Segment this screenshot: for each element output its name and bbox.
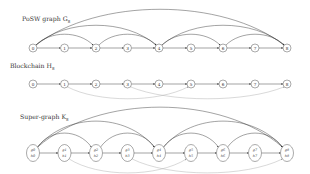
supergraph-node-4: g4h4	[153, 145, 166, 162]
node-label-top: g3	[125, 148, 129, 152]
node-label-bottom: h5	[189, 154, 193, 158]
node-label: 1	[63, 46, 66, 51]
posw-node-4: 4	[155, 44, 163, 52]
posw-node-0: 0	[29, 44, 37, 52]
nodes-layer: 012345678012345678g0h0g1h1g2h2g3h3g4h4g5…	[27, 44, 294, 162]
node-label: 4	[158, 82, 161, 87]
supergraph-node-5: g5h5	[185, 145, 198, 162]
supergraph-node-0: g0h0	[27, 145, 40, 162]
posw-arc-4-6	[162, 34, 220, 45]
posw-node-8: 8	[283, 44, 291, 52]
node-label: 5	[190, 46, 193, 51]
node-label: 6	[222, 82, 225, 87]
node-label-bottom: h4	[157, 154, 161, 158]
node-label-bottom: h2	[94, 154, 98, 158]
node-label: 6	[222, 46, 225, 51]
supergraph-node-3: g3h3	[121, 145, 134, 162]
node-label: 8	[286, 82, 289, 87]
posw-arc-2-4	[99, 34, 156, 45]
posw-node-5: 5	[187, 44, 195, 52]
graph-diagram: PoSW graph G8 Blockchain H8 Super-graph …	[0, 0, 310, 174]
supergraph-arc-0-8	[38, 107, 283, 147]
supergraph-title: Super-graph K8	[20, 113, 69, 122]
blockchain-node-8: 8	[283, 80, 291, 88]
node-label: 3	[126, 46, 129, 51]
node-label-bottom: h3	[125, 154, 129, 158]
posw-node-3: 3	[124, 44, 132, 52]
node-label: 8	[286, 46, 289, 51]
node-label: 4	[158, 46, 161, 51]
posw-arc-0-8	[36, 9, 284, 45]
posw-node-7: 7	[251, 44, 259, 52]
node-label: 0	[32, 82, 35, 87]
node-label-top: g2	[94, 148, 98, 152]
posw-node-6: 6	[219, 44, 227, 52]
node-label: 1	[63, 82, 66, 87]
node-label: 5	[190, 82, 193, 87]
blockchain-node-6: 6	[219, 80, 227, 88]
posw-arc-0-2	[36, 34, 93, 45]
node-label: 7	[254, 46, 257, 51]
blockchain-title: Blockchain H8	[10, 62, 55, 71]
posw-arc-6-8	[226, 34, 284, 45]
blockchain-back-arc-1-5	[67, 87, 188, 99]
posw-node-2: 2	[92, 44, 100, 52]
supergraph-node-2: g2h2	[90, 145, 103, 162]
node-label: 2	[95, 82, 98, 87]
node-label: 7	[254, 82, 257, 87]
node-label: 2	[95, 46, 98, 51]
blockchain-node-7: 7	[251, 80, 259, 88]
node-label-top: g1	[62, 148, 66, 152]
posw-node-1: 1	[61, 44, 69, 52]
blockchain-node-5: 5	[187, 80, 195, 88]
blockchain-node-4: 4	[155, 80, 163, 88]
node-label: 0	[32, 46, 35, 51]
posw-graph-title: PoSW graph G8	[22, 15, 71, 24]
node-label: 3	[126, 82, 129, 87]
blockchain-node-2: 2	[92, 80, 100, 88]
blockchain-node-0: 0	[29, 80, 37, 88]
blockchain-node-1: 1	[61, 80, 69, 88]
blockchain-node-3: 3	[124, 80, 132, 88]
node-label-top: g5	[189, 148, 193, 152]
supergraph-node-1: g1h1	[58, 145, 71, 162]
supergraph-node-8: g8h8	[281, 145, 294, 162]
node-label-bottom: h1	[62, 154, 66, 158]
node-label-top: g4	[157, 148, 161, 152]
supergraph-node-7: g7h7	[249, 145, 262, 162]
supergraph-node-6: g6h6	[217, 145, 230, 162]
